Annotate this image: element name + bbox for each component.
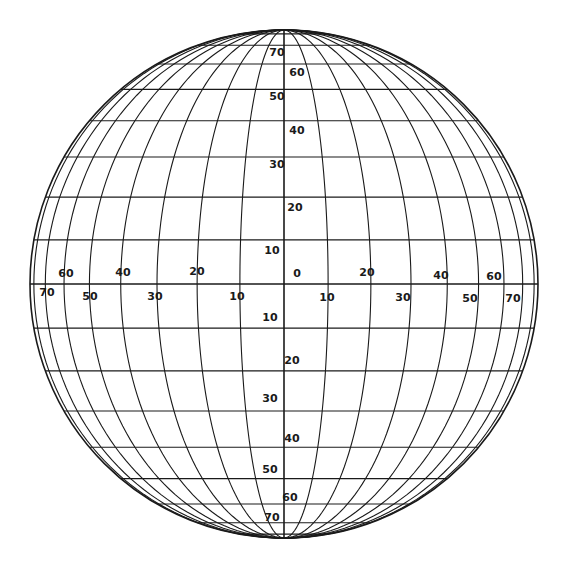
longitude-label: 70	[505, 292, 521, 305]
latitude-label: 20	[284, 354, 300, 367]
longitude-label: 10	[319, 291, 335, 304]
latitude-label: 40	[284, 432, 300, 445]
longitude-label: 30	[147, 290, 163, 303]
longitude-label: 20	[189, 265, 205, 278]
globe-graticule-diagram: 7060504030201001020304050607070605040302…	[0, 0, 564, 571]
latitude-label: 70	[269, 46, 285, 59]
latitude-label: 10	[262, 311, 278, 324]
longitude-label: 50	[82, 290, 98, 303]
longitude-label: 20	[359, 266, 375, 279]
latitude-label: 40	[289, 124, 305, 137]
latitude-label: 20	[287, 201, 303, 214]
latitude-label: 50	[269, 90, 285, 103]
latitude-label: 30	[262, 392, 278, 405]
latitude-label: 0	[293, 267, 301, 280]
latitude-label: 60	[282, 491, 298, 504]
graticule-lines	[30, 30, 538, 538]
latitude-label: 50	[262, 463, 278, 476]
latitude-label: 60	[289, 66, 305, 79]
longitude-label: 40	[115, 266, 131, 279]
latitude-label: 10	[264, 244, 280, 257]
longitude-label: 60	[58, 267, 74, 280]
latitude-label: 30	[269, 158, 285, 171]
longitude-label: 60	[486, 270, 502, 283]
longitude-label: 70	[39, 286, 55, 299]
longitude-label: 10	[229, 290, 245, 303]
longitude-label: 30	[395, 291, 411, 304]
longitude-label: 50	[462, 292, 478, 305]
latitude-label: 70	[264, 511, 280, 524]
longitude-label: 40	[433, 269, 449, 282]
